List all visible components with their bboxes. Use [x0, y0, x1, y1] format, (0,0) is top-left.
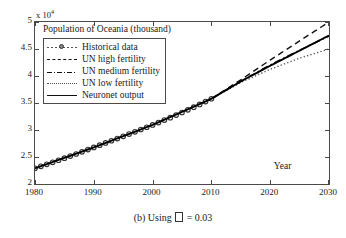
- y-axis-tick-label: 3: [4, 124, 32, 133]
- y-tick-mark: [325, 76, 329, 77]
- legend-line: [47, 59, 77, 60]
- y-tick-mark: [35, 184, 39, 185]
- y-axis-exponent-power: 4: [51, 9, 54, 15]
- legend-item: Historical data: [47, 41, 160, 53]
- x-axis-tick-label: 2010: [190, 187, 230, 197]
- legend-item: UN medium fertility: [47, 65, 160, 77]
- x-tick-mark: [35, 22, 36, 26]
- caption-suffix: = 0.03: [187, 212, 213, 223]
- series-line: [211, 49, 329, 99]
- x-tick-mark: [270, 22, 271, 26]
- x-tick-mark: [328, 180, 329, 184]
- legend-sample-dashed-icon: [47, 54, 77, 65]
- x-tick-mark: [153, 22, 154, 26]
- legend-box: Historical dataUN high fertilityUN mediu…: [43, 38, 166, 104]
- legend-line: [47, 83, 77, 84]
- y-axis-tick-label: 3.5: [4, 97, 32, 106]
- x-tick-mark: [94, 180, 95, 184]
- legend-item: UN high fertility: [47, 53, 160, 65]
- y-axis-labels: 22.533.544.55: [0, 0, 32, 238]
- legend-label: Neuronet output: [82, 90, 144, 101]
- legend-item: UN low fertility: [47, 77, 160, 89]
- legend-sample-solid-icon: [47, 90, 77, 101]
- year-axis-annotation: Year: [274, 161, 292, 172]
- x-axis-tick-label: 1980: [14, 187, 54, 197]
- x-tick-mark: [94, 22, 95, 26]
- legend-marker-icon: [59, 44, 64, 49]
- x-tick-mark: [211, 22, 212, 26]
- y-axis-exponent: x 104: [36, 7, 54, 20]
- x-axis-tick-label: 1990: [73, 187, 113, 197]
- y-tick-mark: [325, 130, 329, 131]
- y-tick-mark: [35, 157, 39, 158]
- y-axis-tick-label: 4.5: [4, 43, 32, 52]
- legend-line: [47, 71, 77, 74]
- x-axis-tick-label: 2020: [249, 187, 289, 197]
- legend-item: Neuronet output: [47, 89, 160, 101]
- legend-sample-dotted-marker-icon: [47, 42, 77, 53]
- x-tick-mark: [270, 180, 271, 184]
- y-axis-tick-label: 2.5: [4, 151, 32, 160]
- y-tick-mark: [35, 49, 39, 50]
- y-tick-mark: [35, 103, 39, 104]
- legend-line: [47, 95, 77, 96]
- y-tick-mark: [325, 49, 329, 50]
- y-axis-tick-label: 2: [4, 178, 32, 187]
- y-tick-mark: [35, 130, 39, 131]
- legend-sample-dash-dot-icon: [47, 66, 77, 77]
- y-tick-mark: [325, 184, 329, 185]
- y-tick-mark: [325, 157, 329, 158]
- legend-label: UN high fertility: [82, 54, 146, 65]
- legend-label: Historical data: [82, 42, 138, 53]
- y-axis-tick-label: 4: [4, 70, 32, 79]
- missing-glyph-icon: [175, 212, 183, 222]
- figure-panel: x 104 22.533.544.55 19801990200020102020…: [0, 0, 346, 238]
- y-axis-exponent-base: x 10: [36, 10, 51, 20]
- y-axis-tick-label: 5: [4, 16, 32, 25]
- figure-caption: (b) Using = 0.03: [0, 212, 346, 224]
- x-tick-mark: [35, 180, 36, 184]
- legend-label: UN low fertility: [82, 78, 143, 89]
- plot-area: Population of Oceania (thousand) Histori…: [34, 21, 330, 185]
- x-tick-mark: [328, 22, 329, 26]
- legend-label: UN medium fertility: [82, 66, 160, 77]
- x-tick-mark: [153, 180, 154, 184]
- legend-sample-dotted-icon: [47, 78, 77, 89]
- x-axis-tick-label: 2030: [308, 187, 346, 197]
- caption-prefix: (b) Using: [134, 212, 172, 223]
- x-tick-mark: [211, 180, 212, 184]
- y-tick-mark: [325, 103, 329, 104]
- series-line: [211, 22, 329, 99]
- x-axis-tick-label: 2000: [132, 187, 172, 197]
- y-tick-mark: [35, 76, 39, 77]
